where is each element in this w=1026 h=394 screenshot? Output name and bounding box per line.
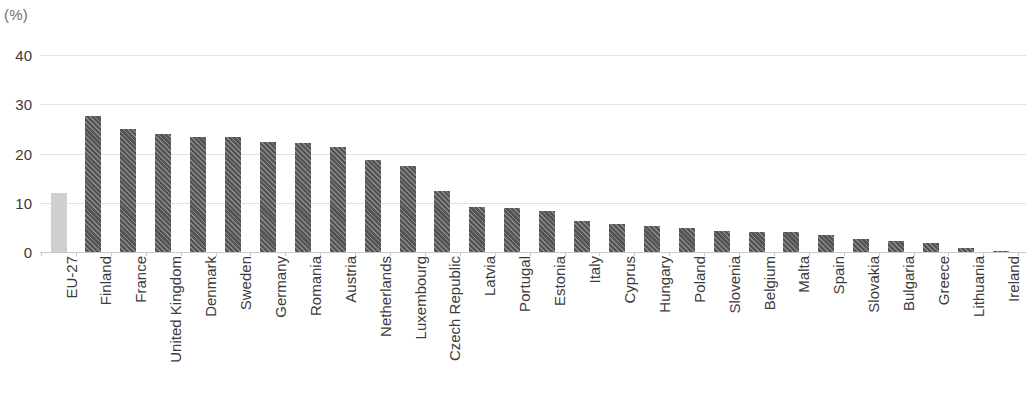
- bar[interactable]: [539, 211, 555, 252]
- bar[interactable]: [714, 231, 730, 252]
- bar[interactable]: [853, 239, 869, 252]
- x-tick-label: Austria: [343, 256, 358, 303]
- bar[interactable]: [574, 221, 590, 252]
- plot-area: [40, 55, 1026, 252]
- bar[interactable]: [85, 116, 101, 252]
- bar[interactable]: [644, 226, 660, 252]
- x-tick-label: Estonia: [552, 256, 567, 306]
- bar[interactable]: [190, 137, 206, 252]
- x-tick-label: Italy: [587, 256, 602, 284]
- bar[interactable]: [679, 228, 695, 252]
- y-tick-label: 30: [2, 97, 32, 112]
- x-tick-label: Finland: [98, 256, 113, 305]
- x-tick-label: France: [133, 256, 148, 303]
- y-axis-tick-labels: 010203040: [0, 55, 32, 252]
- bar[interactable]: [469, 207, 485, 252]
- bar[interactable]: [225, 137, 241, 252]
- x-axis-category-labels: EU-27FinlandFranceUnited KingdomDenmarkS…: [40, 256, 1026, 394]
- bar[interactable]: [365, 160, 381, 252]
- x-tick-label: Spain: [831, 256, 846, 294]
- bar[interactable]: [888, 241, 904, 252]
- x-tick-label: Denmark: [203, 256, 218, 317]
- x-tick-label: Hungary: [657, 256, 672, 313]
- x-tick-label: Lithuania: [971, 256, 986, 317]
- bar[interactable]: [400, 166, 416, 252]
- bar[interactable]: [155, 134, 171, 252]
- x-tick-label: Czech Republic: [447, 256, 462, 361]
- x-tick-label: Cyprus: [622, 256, 637, 304]
- bar[interactable]: [434, 191, 450, 252]
- bar[interactable]: [120, 129, 136, 252]
- bar[interactable]: [504, 208, 520, 252]
- bar[interactable]: [818, 235, 834, 252]
- x-tick-label: Portugal: [517, 256, 532, 312]
- y-tick-label: 40: [2, 48, 32, 63]
- x-tick-label: United Kingdom: [168, 256, 183, 363]
- bar-chart: (%) 010203040 EU-27FinlandFranceUnited K…: [0, 0, 1026, 394]
- bar[interactable]: [923, 243, 939, 252]
- x-tick-label: EU-27: [64, 256, 79, 299]
- bar[interactable]: [609, 224, 625, 252]
- x-tick-label: Luxembourg: [413, 256, 428, 339]
- bar[interactable]: [295, 143, 311, 252]
- x-tick-label: Ireland: [1006, 256, 1021, 302]
- x-tick-label: Bulgaria: [901, 256, 916, 311]
- x-tick-label: Latvia: [482, 256, 497, 296]
- bar[interactable]: [51, 193, 67, 252]
- x-tick-label: Netherlands: [378, 256, 393, 337]
- x-tick-label: Belgium: [762, 256, 777, 310]
- bar[interactable]: [958, 248, 974, 252]
- x-tick-label: Romania: [308, 256, 323, 316]
- bar[interactable]: [260, 142, 276, 252]
- bars-layer: [40, 55, 1026, 252]
- y-axis-unit-label: (%): [4, 6, 28, 23]
- x-tick-label: Sweden: [238, 256, 253, 310]
- bar[interactable]: [993, 251, 1009, 253]
- x-tick-label: Greece: [936, 256, 951, 305]
- x-tick-label: Germany: [273, 256, 288, 318]
- y-tick-label: 0: [2, 245, 32, 260]
- bar[interactable]: [330, 147, 346, 252]
- x-tick-label: Malta: [796, 256, 811, 293]
- x-tick-label: Slovakia: [866, 256, 881, 313]
- bar[interactable]: [783, 232, 799, 252]
- y-tick-label: 10: [2, 195, 32, 210]
- x-tick-label: Poland: [692, 256, 707, 303]
- x-tick-label: Slovenia: [727, 256, 742, 314]
- y-tick-label: 20: [2, 146, 32, 161]
- bar[interactable]: [749, 232, 765, 252]
